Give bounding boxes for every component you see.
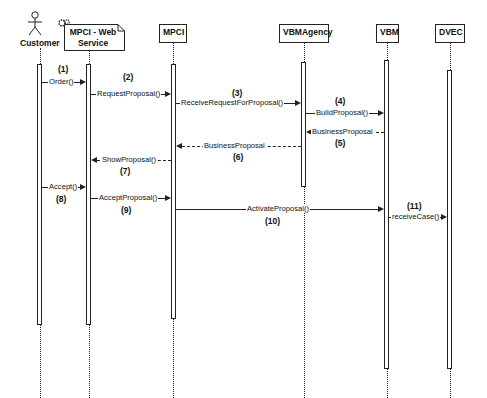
arrowhead-icon xyxy=(80,79,86,85)
arrowhead-icon xyxy=(378,206,384,212)
message-1-label: Order() xyxy=(48,77,74,86)
arrowhead-icon xyxy=(441,214,447,220)
participant-mpci-web-service: MPCI - Web Service xyxy=(64,24,125,51)
message-11-number: (11) xyxy=(407,201,422,211)
message-9-label: AcceptProposal() xyxy=(98,193,158,202)
message-2-number: (2) xyxy=(123,72,133,82)
message-10-label: ActivateProposal() xyxy=(246,204,310,213)
message-4-label: BuildProposal() xyxy=(315,108,369,117)
arrowhead-icon xyxy=(378,110,384,116)
participant-mpci-label: MPCI xyxy=(163,27,184,37)
arrowhead-icon xyxy=(176,143,182,149)
participant-mpci-web-service-label-1: MPCI - Web xyxy=(64,27,122,37)
participant-vbmagency: VBMAgency xyxy=(279,24,329,43)
arrowhead-icon xyxy=(165,91,171,97)
message-6-number: (6) xyxy=(233,152,243,162)
message-2-label: RequestProposal() xyxy=(96,89,161,98)
message-7-label: ShowProposal() xyxy=(101,155,157,164)
participant-mpci-web-service-label-2: Service xyxy=(64,38,122,48)
actor-icon xyxy=(27,11,43,37)
message-5-number: (5) xyxy=(335,138,345,148)
message-1-number: (1) xyxy=(58,64,68,74)
message-8-number: (8) xyxy=(56,194,66,204)
arrowhead-icon xyxy=(165,195,171,201)
participant-mpci: MPCI xyxy=(159,24,187,43)
participant-vbm-label: VBM xyxy=(380,27,399,37)
message-7-number: (7) xyxy=(120,166,130,176)
activation-dvec xyxy=(447,70,452,369)
message-8-label: Accept() xyxy=(48,182,78,191)
message-3-number: (3) xyxy=(232,88,242,98)
message-9-number: (9) xyxy=(121,205,131,215)
message-10-number: (10) xyxy=(265,216,280,226)
message-5-label: BusinessProposal xyxy=(311,127,374,136)
participant-vbm: VBM xyxy=(376,24,399,43)
activation-vbm xyxy=(384,60,389,369)
arrowhead-icon xyxy=(91,157,97,163)
message-11-label: receiveCase() xyxy=(391,212,440,221)
message-6-label: BusinessProposal xyxy=(203,141,266,150)
participant-customer-label: Customer xyxy=(20,38,60,48)
participant-vbmagency-label: VBMAgency xyxy=(283,27,333,37)
activation-vbmagency xyxy=(301,62,306,187)
arrowhead-icon xyxy=(295,100,301,106)
activation-mpci-web-service xyxy=(86,64,91,325)
message-4-number: (4) xyxy=(335,96,345,106)
participant-dvec-label: DVEC xyxy=(439,27,463,37)
message-3-label: ReceiveRequestForProposal() xyxy=(180,98,284,107)
participant-dvec: DVEC xyxy=(435,24,465,43)
activation-customer xyxy=(37,64,42,325)
arrowhead-icon xyxy=(80,184,86,190)
